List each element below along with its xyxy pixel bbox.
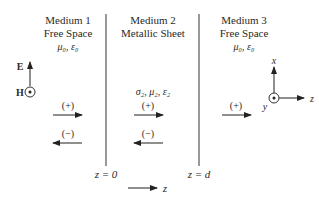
- medium-3-subtitle: Free Space: [220, 27, 269, 39]
- medium-1-forward-label: (+): [62, 100, 74, 112]
- z-axis-label: z: [309, 93, 314, 104]
- medium-1-params: μ₀, ε₀: [57, 41, 79, 52]
- medium-2-params: σ₂, μ₂, ε₂: [136, 86, 171, 97]
- boundary-label-zd: z = d: [187, 168, 211, 180]
- y-axis-label: y: [262, 101, 268, 112]
- medium-3-forward-label: (+): [230, 100, 242, 112]
- field-orientation-icon: E H: [16, 61, 35, 98]
- e-field-label: E: [17, 61, 24, 72]
- coordinate-axes-icon: x y z: [262, 55, 314, 112]
- x-axis-label: x: [271, 55, 277, 66]
- medium-2-subtitle: Metallic Sheet: [121, 27, 185, 39]
- medium-2-forward-label: (+): [142, 100, 154, 112]
- h-field-label: H: [16, 87, 24, 98]
- diagram-canvas: Medium 1 Free Space μ₀, ε₀ Medium 2 Meta…: [0, 0, 319, 200]
- propagation-axis-label: z: [162, 182, 168, 194]
- medium-2-backward-label: (−): [142, 128, 154, 140]
- boundary-label-z0: z = 0: [94, 168, 118, 180]
- medium-1-backward-label: (−): [62, 128, 74, 140]
- medium-1-title: Medium 1: [45, 14, 91, 26]
- medium-1-subtitle: Free Space: [44, 27, 93, 39]
- medium-3-title: Medium 3: [221, 14, 267, 26]
- medium-2-title: Medium 2: [130, 14, 176, 26]
- medium-3-params: μ₀, ε₀: [233, 41, 255, 52]
